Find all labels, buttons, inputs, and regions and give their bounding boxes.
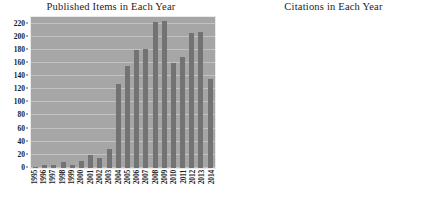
y-axis-tick-mark [26, 75, 28, 76]
y-axis-tick-mark [26, 35, 28, 36]
chart-panel-published-items: Published Items in Each Year 02040608010… [0, 0, 222, 218]
x-axis-tick-label: 2005 [124, 170, 132, 184]
bar [125, 66, 130, 168]
x-axis-tick-label: 2014 [208, 170, 216, 184]
x-axis-tick-label: 1995 [31, 170, 39, 184]
x-axis-tick-label: 2004 [115, 170, 123, 184]
bar [171, 63, 176, 168]
x-axis-tick-label: 2010 [170, 170, 178, 184]
bar [143, 49, 148, 168]
y-axis-tick-label: 120 [14, 84, 25, 93]
bar [198, 32, 203, 168]
y-axis-tick-label: 220 [14, 18, 25, 27]
bar [153, 22, 158, 168]
y-axis-tick-label: 40 [18, 136, 26, 145]
y-axis-tick-mark [26, 153, 28, 154]
y-axis-tick-mark [26, 101, 28, 102]
y-axis-tick-mark [26, 140, 28, 141]
x-axis-tick-label: 2001 [87, 170, 95, 184]
y-axis-tick-label: 0 [21, 163, 25, 172]
chart-panel-citations: Citations in Each Year 05001000150020002… [222, 0, 445, 218]
bar [42, 165, 47, 168]
x-axis-tick-label: 1997 [49, 170, 57, 184]
bar [51, 165, 56, 168]
y-axis-tick-label: 200 [14, 31, 25, 40]
y-axis-tick-label: 20 [18, 149, 26, 158]
y-axis-tick-label: 180 [14, 44, 25, 53]
x-axis-tick-label: 2000 [77, 170, 85, 184]
y-axis-tick-mark [26, 127, 28, 128]
bar [79, 161, 84, 168]
x-axis-tick-label: 1998 [59, 170, 67, 184]
y-axis-tick-label: 60 [18, 123, 26, 132]
bar [162, 21, 167, 168]
chart-title-published-items: Published Items in Each Year [0, 1, 222, 12]
y-axis-published-items: 020406080100120140160180200220 [0, 16, 28, 169]
x-axis-tick-label: 2012 [189, 170, 197, 184]
x-axis-tick-label: 2011 [180, 170, 188, 184]
y-axis-tick-mark [26, 88, 28, 89]
x-axis-published-items: 1995199619971998199920002001200220032004… [30, 170, 216, 216]
bars-published-items [31, 17, 215, 168]
y-axis-tick-mark [26, 114, 28, 115]
charts-figure: Published Items in Each Year 02040608010… [0, 0, 445, 218]
bar [180, 57, 185, 168]
x-axis-tick-label: 1996 [40, 170, 48, 184]
y-axis-tick-label: 100 [14, 97, 25, 106]
bar [208, 79, 213, 168]
x-axis-tick-label: 2009 [161, 170, 169, 184]
x-axis-tick-label: 2007 [142, 170, 150, 184]
x-axis-tick-label: 2013 [198, 170, 206, 184]
bar [97, 158, 102, 169]
bar [134, 50, 139, 168]
bar [70, 165, 75, 168]
plot-area-published-items [30, 16, 216, 169]
bar [107, 149, 112, 168]
y-axis-tick-mark [26, 48, 28, 49]
y-axis-tick-label: 160 [14, 57, 25, 66]
bar [33, 167, 38, 168]
bar [61, 162, 66, 168]
bar [189, 33, 194, 168]
bar [116, 84, 121, 168]
y-axis-tick-mark [26, 61, 28, 62]
y-axis-tick-mark [26, 22, 28, 23]
y-axis-tick-label: 140 [14, 71, 25, 80]
x-axis-tick-label: 2006 [133, 170, 141, 184]
x-axis-tick-label: 2003 [105, 170, 113, 184]
x-axis-tick-label: 2002 [96, 170, 104, 184]
y-axis-tick-label: 80 [18, 110, 26, 119]
x-axis-tick-label: 2008 [152, 170, 160, 184]
y-axis-tick-mark [26, 167, 28, 168]
x-axis-tick-label: 1999 [68, 170, 76, 184]
chart-title-citations: Citations in Each Year [222, 1, 445, 12]
bar [88, 155, 93, 168]
